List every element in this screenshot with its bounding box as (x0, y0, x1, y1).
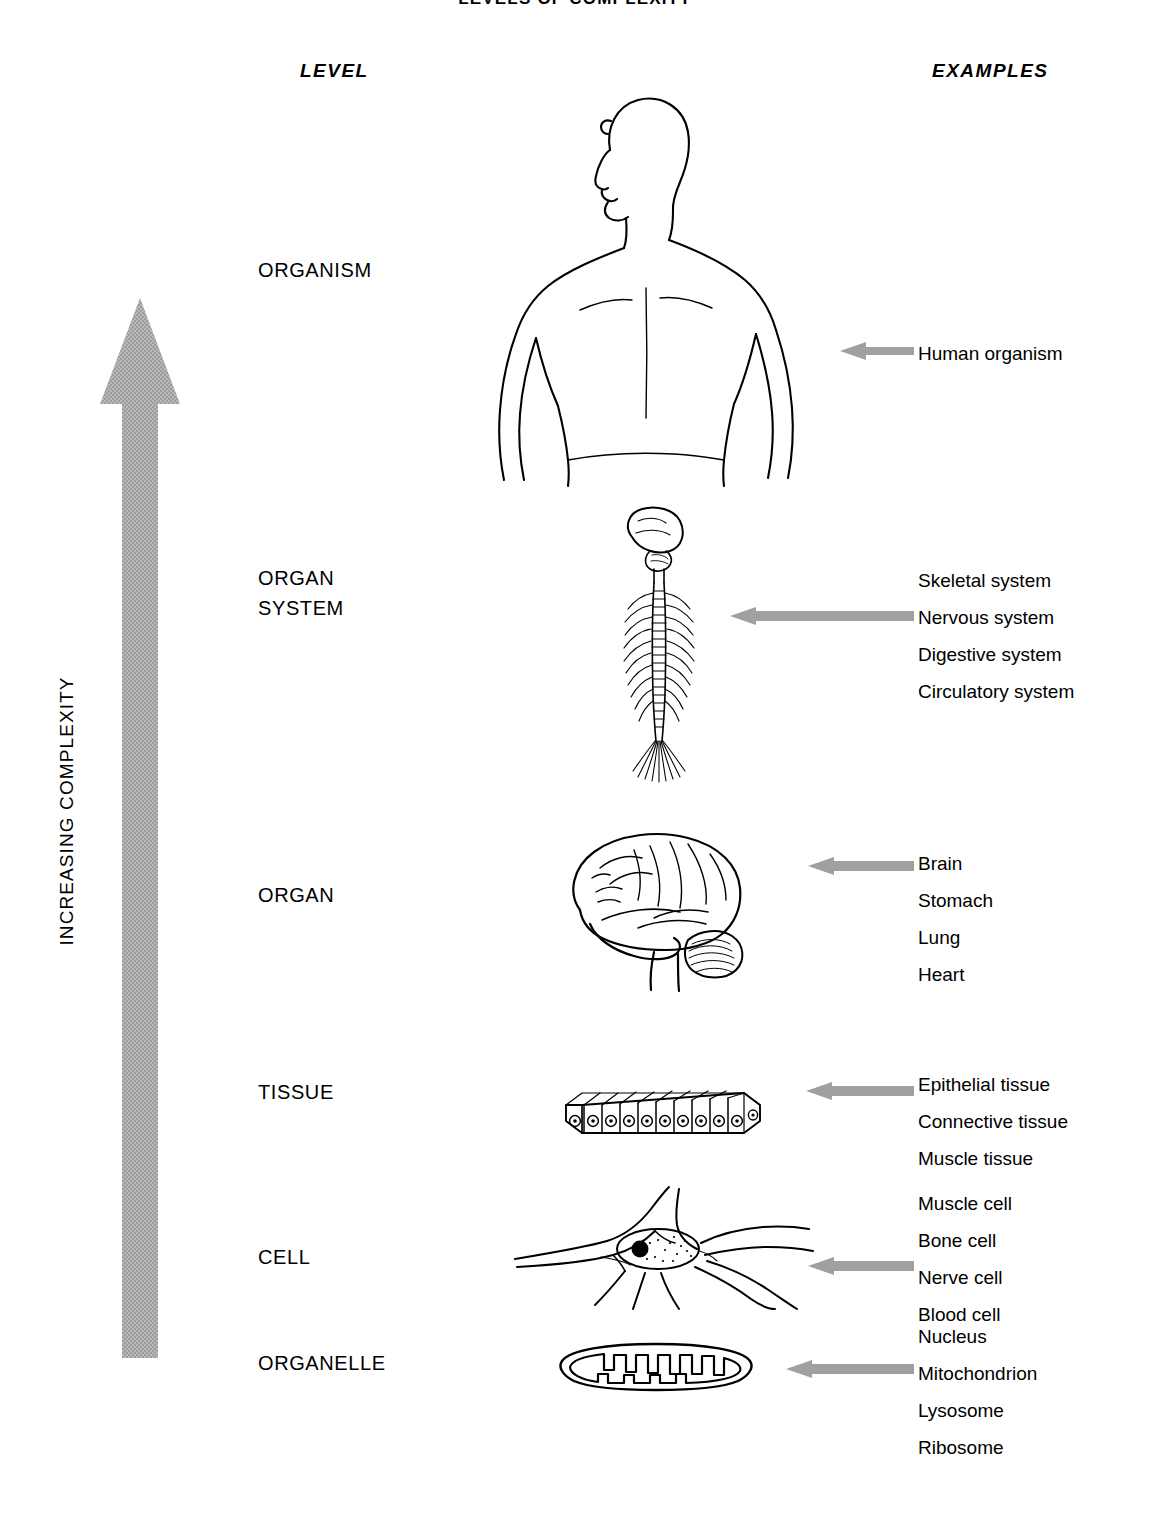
example-item: Brain (918, 845, 993, 882)
pointer-arrow-cell-icon (808, 1255, 914, 1277)
example-item: Lysosome (918, 1392, 1037, 1429)
examples-cell: Muscle cell Bone cell Nerve cell Blood c… (918, 1185, 1012, 1333)
pointer-arrow-organelle-icon (786, 1358, 914, 1380)
example-item: Mitochondrion (918, 1355, 1037, 1392)
brain-figure (538, 832, 808, 992)
human-body-figure (470, 88, 810, 488)
example-item: Stomach (918, 882, 993, 919)
examples-organism: Human organism (918, 335, 1063, 372)
level-label-organelle: ORGANELLE (258, 1348, 386, 1378)
examples-organ-system: Skeletal system Nervous system Digestive… (918, 562, 1074, 710)
increasing-complexity-label: INCREASING COMPLEXITY (56, 631, 78, 991)
example-item: Ribosome (918, 1429, 1037, 1466)
examples-organ: Brain Stomach Lung Heart (918, 845, 993, 993)
increasing-complexity-arrow-icon (98, 296, 182, 1360)
epithelial-tissue-figure (548, 1081, 768, 1153)
examples-organelle: Nucleus Mitochondrion Lysosome Ribosome (918, 1318, 1037, 1466)
example-item: Muscle tissue (918, 1140, 1068, 1177)
example-item: Muscle cell (918, 1185, 1012, 1222)
example-item: Lung (918, 919, 993, 956)
nervous-system-figure (592, 505, 722, 785)
pointer-arrow-tissue-icon (806, 1080, 914, 1102)
example-item: Bone cell (918, 1222, 1012, 1259)
example-item: Heart (918, 956, 993, 993)
example-item: Connective tissue (918, 1103, 1068, 1140)
examples-tissue: Epithelial tissue Connective tissue Musc… (918, 1066, 1068, 1177)
level-label-tissue: TISSUE (258, 1077, 334, 1107)
example-item: Digestive system (918, 636, 1074, 673)
page-title: LEVELS OF COMPLEXITY (0, 0, 1150, 9)
example-item: Circulatory system (918, 673, 1074, 710)
example-item: Nervous system (918, 599, 1074, 636)
nerve-cell-figure (495, 1185, 815, 1310)
example-item: Epithelial tissue (918, 1066, 1068, 1103)
example-item: Human organism (918, 335, 1063, 372)
pointer-arrow-organ-system-icon (730, 605, 914, 627)
mitochondrion-figure (556, 1340, 756, 1394)
example-item: Skeletal system (918, 562, 1074, 599)
example-item: Nerve cell (918, 1259, 1012, 1296)
pointer-arrow-organism-icon (840, 340, 914, 362)
level-label-organ: ORGAN (258, 880, 334, 910)
pointer-arrow-organ-icon (808, 855, 914, 877)
level-label-organ-system: ORGAN SYSTEM (258, 563, 344, 623)
level-label-organism: ORGANISM (258, 255, 372, 285)
example-item: Nucleus (918, 1318, 1037, 1355)
column-header-level: LEVEL (300, 60, 369, 82)
column-header-examples: EXAMPLES (932, 60, 1049, 82)
level-label-cell: CELL (258, 1242, 310, 1272)
